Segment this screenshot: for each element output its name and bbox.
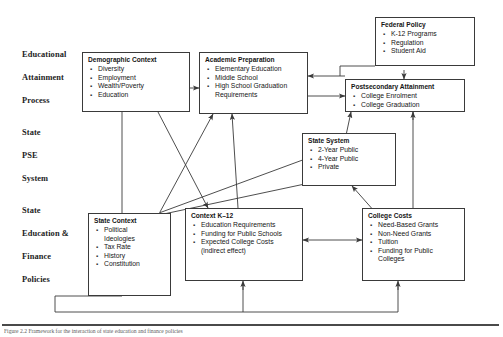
box-list-college-costs: ▪Need-Based Grants ▪Non-Need Grants ▪Tui… bbox=[368, 221, 460, 264]
list-item: ▪Wealth/Poverty bbox=[98, 82, 185, 91]
box-list-federal-policy: ▪K-12 Programs ▪Regulation ▪Student Aid bbox=[381, 30, 470, 56]
list-item: ▪Regulation bbox=[391, 39, 470, 48]
bullet-icon: ▪ bbox=[96, 252, 98, 261]
list-item: ▪Middle School bbox=[215, 74, 303, 83]
bullet-icon: ▪ bbox=[383, 30, 385, 39]
list-item: ▪Education bbox=[98, 91, 185, 100]
list-item: ▪Private bbox=[318, 163, 391, 172]
bullet-icon: ▪ bbox=[370, 247, 372, 256]
box-title-academic-preparation: Academic Preparation bbox=[205, 56, 303, 64]
list-item: ▪Education Requirements bbox=[201, 221, 298, 230]
figure-caption: Figure 2.2 Framework for the interaction… bbox=[4, 328, 474, 335]
list-item: ▪Non-Need Grants bbox=[378, 230, 460, 239]
bullet-icon: ▪ bbox=[90, 82, 92, 91]
bullet-icon: ▪ bbox=[383, 39, 385, 48]
bullet-icon: ▪ bbox=[193, 238, 195, 247]
box-title-federal-policy: Federal Policy bbox=[381, 21, 470, 29]
bullet-icon: ▪ bbox=[370, 230, 372, 239]
box-context-k12[interactable]: Context K–12 ▪Education Requirements ▪Fu… bbox=[185, 208, 303, 281]
box-title-postsecondary-attainment: Postsecondary Attainment bbox=[351, 83, 460, 91]
list-item: ▪History bbox=[104, 252, 166, 261]
box-list-demographic-context: ▪Diversity ▪Employment ▪Wealth/Poverty ▪… bbox=[88, 65, 185, 99]
list-item: ▪College Enrolment bbox=[361, 92, 460, 101]
bullet-icon: ▪ bbox=[207, 82, 209, 91]
bullet-icon: ▪ bbox=[96, 226, 98, 235]
list-item: ▪4-Year Public bbox=[318, 155, 391, 164]
list-item: ▪High School GraduationRequirements bbox=[215, 82, 303, 99]
bullet-icon: ▪ bbox=[90, 74, 92, 83]
list-item: ▪Expected College Costs(indirect effect) bbox=[201, 238, 298, 255]
list-item-continuation: Colleges bbox=[378, 255, 460, 264]
bullet-icon: ▪ bbox=[193, 230, 195, 239]
box-academic-preparation[interactable]: Academic Preparation ▪Elementary Educati… bbox=[199, 52, 308, 114]
box-state-context[interactable]: State Context ▪PoliticalIdeologies ▪Tax … bbox=[88, 213, 171, 296]
list-item: ▪Diversity bbox=[98, 65, 185, 74]
list-item: ▪Funding for Public Schools bbox=[201, 230, 298, 239]
list-item-continuation: Ideologies bbox=[104, 235, 166, 244]
bullet-icon: ▪ bbox=[96, 260, 98, 269]
bullet-icon: ▪ bbox=[370, 238, 372, 247]
link-demographic-to-k12 bbox=[158, 112, 208, 208]
bullet-icon: ▪ bbox=[370, 221, 372, 230]
list-item: ▪College Graduation bbox=[361, 101, 460, 110]
box-title-demographic-context: Demographic Context bbox=[88, 56, 185, 64]
bullet-icon: ▪ bbox=[353, 92, 355, 101]
bullet-icon: ▪ bbox=[207, 74, 209, 83]
box-title-state-system: State System bbox=[308, 137, 391, 145]
link-federal-to-academic-seg bbox=[340, 66, 375, 76]
link-bottom-route-to-collegecosts bbox=[243, 284, 398, 312]
box-postsecondary-attainment[interactable]: Postsecondary Attainment ▪College Enrolm… bbox=[345, 79, 465, 112]
link-k12-to-academic bbox=[232, 114, 238, 208]
list-item: ▪Employment bbox=[98, 74, 185, 83]
caption-divider bbox=[2, 324, 499, 326]
list-item-continuation: Requirements bbox=[215, 91, 303, 100]
box-list-state-system: ▪2-Year Public ▪4-Year Public ▪Private bbox=[308, 146, 391, 172]
box-title-state-context: State Context bbox=[94, 217, 166, 225]
box-title-college-costs: College Costs bbox=[368, 212, 460, 220]
box-list-postsecondary-attainment: ▪College Enrolment ▪College Graduation bbox=[351, 92, 460, 109]
box-list-academic-preparation: ▪Elementary Education ▪Middle School ▪Hi… bbox=[205, 65, 303, 99]
bullet-icon: ▪ bbox=[96, 243, 98, 252]
list-item: ▪Student Aid bbox=[391, 47, 470, 56]
bullet-icon: ▪ bbox=[353, 101, 355, 110]
list-item: ▪PoliticalIdeologies bbox=[104, 226, 166, 243]
bullet-icon: ▪ bbox=[193, 221, 195, 230]
list-item: ▪2-Year Public bbox=[318, 146, 391, 155]
list-item: ▪Elementary Education bbox=[215, 65, 303, 74]
box-list-context-k12: ▪Education Requirements ▪Funding for Pub… bbox=[191, 221, 298, 255]
bullet-icon: ▪ bbox=[310, 155, 312, 164]
bullet-icon: ▪ bbox=[383, 47, 385, 56]
figure-canvas: Educational Attainment Process State PSE… bbox=[0, 0, 503, 337]
bullet-icon: ▪ bbox=[310, 163, 312, 172]
box-college-costs[interactable]: College Costs ▪Need-Based Grants ▪Non-Ne… bbox=[362, 208, 465, 281]
box-title-context-k12: Context K–12 bbox=[191, 212, 298, 220]
list-item: ▪Tax Rate bbox=[104, 243, 166, 252]
list-item: ▪Tuition bbox=[378, 238, 460, 247]
list-item: ▪Constitution bbox=[104, 260, 166, 269]
list-item-continuation: (indirect effect) bbox=[201, 247, 298, 256]
list-item: ▪K-12 Programs bbox=[391, 30, 470, 39]
box-list-state-context: ▪PoliticalIdeologies ▪Tax Rate ▪History … bbox=[94, 226, 166, 269]
bullet-icon: ▪ bbox=[90, 65, 92, 74]
box-demographic-context[interactable]: Demographic Context ▪Diversity ▪Employme… bbox=[82, 52, 190, 112]
list-item: ▪Funding for PublicColleges bbox=[378, 247, 460, 264]
bullet-icon: ▪ bbox=[310, 146, 312, 155]
box-federal-policy[interactable]: Federal Policy ▪K-12 Programs ▪Regulatio… bbox=[375, 17, 475, 66]
bullet-icon: ▪ bbox=[90, 91, 92, 100]
link-statecontext-to-academic bbox=[160, 114, 213, 212]
box-state-system[interactable]: State System ▪2-Year Public ▪4-Year Publ… bbox=[302, 133, 396, 186]
bullet-icon: ▪ bbox=[207, 65, 209, 74]
list-item: ▪Need-Based Grants bbox=[378, 221, 460, 230]
